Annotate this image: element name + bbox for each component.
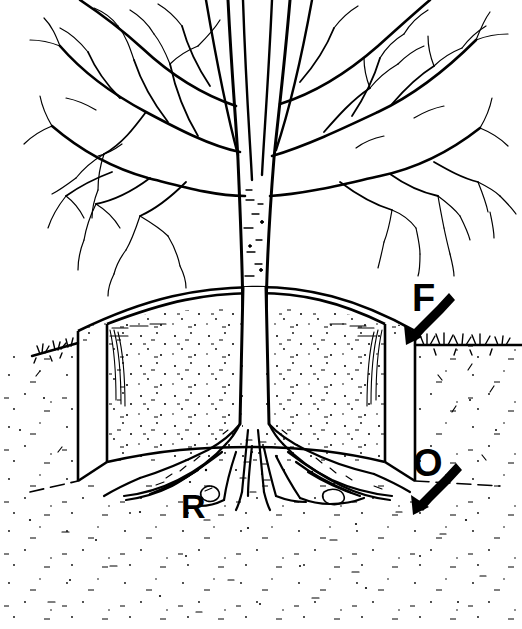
label-O: O bbox=[413, 442, 443, 484]
tree-fill-diagram: F O R bbox=[0, 0, 522, 629]
callout-root-flare: R bbox=[181, 487, 206, 525]
label-R: R bbox=[181, 487, 206, 525]
buried-trunk bbox=[240, 287, 269, 440]
illustration-canvas: F O R F fill soil added above original g… bbox=[0, 0, 522, 629]
